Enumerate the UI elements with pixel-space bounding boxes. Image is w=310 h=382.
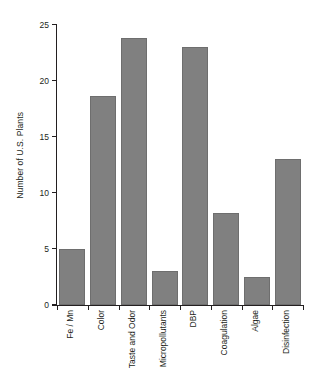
x-axis-label: Algae — [251, 310, 265, 336]
bar[interactable] — [59, 249, 85, 305]
bar-slot — [90, 25, 116, 305]
bar-slot — [152, 25, 178, 305]
bar[interactable] — [121, 38, 147, 305]
x-axis-label-text: Fe / Mn — [66, 310, 75, 339]
x-axis-label: Color — [97, 310, 111, 334]
plot-area: 0510152025 — [57, 25, 303, 305]
bar-chart-figure: Number of U.S. Plants 0510152025 Fe / Mn… — [0, 0, 310, 382]
bar[interactable] — [182, 47, 208, 305]
bar[interactable] — [90, 96, 116, 305]
y-tick-label-10: 10 — [40, 188, 49, 197]
x-axis-label-text: Color — [97, 310, 106, 330]
x-axis-line — [52, 305, 303, 306]
y-tick-label-15: 15 — [40, 132, 49, 141]
y-axis-title: Number of U.S. Plants — [12, 0, 28, 310]
x-axis-labels: Fe / MnColorTaste and OdorMicropollutant… — [57, 310, 303, 382]
x-axis-label: Taste and Odor — [128, 310, 142, 372]
x-axis-label-text: Disinfection — [282, 310, 291, 354]
bar[interactable] — [244, 277, 270, 305]
bar-slot — [213, 25, 239, 305]
y-tick-label-20: 20 — [40, 76, 49, 85]
bar-slot — [182, 25, 208, 305]
bar[interactable] — [213, 213, 239, 305]
x-axis-label: Disinfection — [282, 310, 296, 358]
bar[interactable] — [152, 271, 178, 305]
y-tick-label-5: 5 — [44, 244, 49, 253]
x-axis-label-text: Coagulation — [220, 310, 229, 355]
x-tick — [303, 305, 304, 310]
bar-slot — [244, 25, 270, 305]
x-axis-label-text: Taste and Odor — [128, 310, 137, 368]
x-axis-label-text: DBP — [189, 310, 198, 327]
bar-slot — [59, 25, 85, 305]
y-axis-title-text: Number of U.S. Plants — [15, 112, 25, 199]
x-axis-label-text: Algae — [251, 310, 260, 332]
bar[interactable] — [275, 159, 301, 305]
x-axis-label: Coagulation — [220, 310, 234, 359]
x-axis-label: Fe / Mn — [66, 310, 80, 343]
y-tick-label-25: 25 — [40, 20, 49, 29]
bar-series — [57, 25, 303, 305]
bar-slot — [275, 25, 301, 305]
y-tick-label-0: 0 — [44, 300, 49, 309]
x-axis-label: Micropollutants — [159, 310, 173, 371]
bar-slot — [121, 25, 147, 305]
x-axis-label: DBP — [189, 310, 203, 331]
x-axis-label-text: Micropollutants — [159, 310, 168, 367]
